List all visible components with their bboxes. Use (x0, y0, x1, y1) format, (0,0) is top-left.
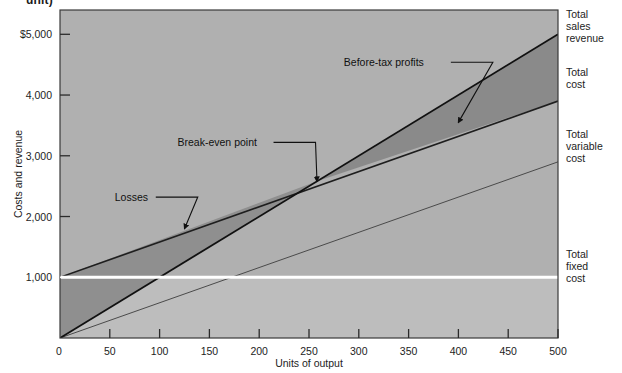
y-tick-label: 4,000 (26, 89, 52, 101)
x-tick-label: 100 (151, 345, 169, 357)
series-label-total-cost: Total (566, 66, 588, 78)
x-tick-label: 350 (400, 345, 418, 357)
series-label-total-cost: cost (566, 78, 585, 90)
y-axis-title: Costs and revenue (12, 130, 24, 218)
break-even-plot: 1,0002,0003,0004,000$5,0000 501001502002… (0, 0, 622, 373)
series-label-total-sales-revenue: sales (566, 20, 591, 32)
x-tick-label: 450 (499, 345, 517, 357)
series-label-total-fixed-cost: cost (566, 272, 585, 284)
y-tick-label: 1,000 (26, 271, 52, 283)
x-tick-label: 150 (201, 345, 219, 357)
series-label-total-sales-revenue: revenue (566, 32, 604, 44)
annotation-label: Losses (115, 191, 148, 203)
x-tick-label: 50 (104, 345, 116, 357)
y-zero-label: 0 (56, 345, 62, 357)
break-even-chart: unit) 1,0002,0003,0004,000$5,00 (0, 0, 622, 373)
series-label-total-variable-cost: variable (566, 140, 603, 152)
series-label-total-variable-cost: cost (566, 152, 585, 164)
x-tick-label: 500 (549, 345, 567, 357)
series-label-total-sales-revenue: Total (566, 8, 588, 20)
x-tick-label: 300 (350, 345, 368, 357)
series-label-total-fixed-cost: fixed (566, 260, 588, 272)
x-tick-label: 250 (300, 345, 318, 357)
annotation-label: Break-even point (178, 136, 257, 148)
series-labels: TotalsalesrevenueTotalcostTotalvariablec… (566, 8, 604, 284)
series-label-total-variable-cost: Total (566, 128, 588, 140)
x-tick-label: 200 (250, 345, 268, 357)
x-axis-title: Units of output (275, 357, 343, 369)
series-label-total-fixed-cost: Total (566, 248, 588, 260)
y-tick-label: 2,000 (26, 211, 52, 223)
x-tick-label: 400 (450, 345, 468, 357)
y-tick-label: $5,000 (20, 28, 52, 40)
y-tick-label: 3,000 (26, 150, 52, 162)
annotation-label: Before-tax profits (344, 56, 424, 68)
